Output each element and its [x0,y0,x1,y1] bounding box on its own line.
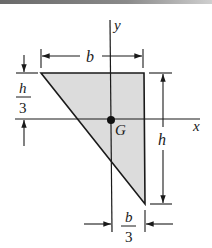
centroid-label: G [115,122,126,138]
h-dim-label: h [158,131,166,148]
b3-dim-denominator: 3 [125,229,133,245]
b-dim-label: b [86,48,94,65]
triangle-area [41,73,145,204]
centroid-point [107,116,115,124]
h3-dim-numerator: h [19,80,27,96]
b3-dim-numerator: b [125,209,133,225]
y-axis-label: y [112,17,121,33]
triangle-centroid-diagram: y x G b h h 3 b 3 [0,0,212,248]
h3-dim-denominator: 3 [19,100,27,116]
x-axis-label: x [192,118,200,134]
